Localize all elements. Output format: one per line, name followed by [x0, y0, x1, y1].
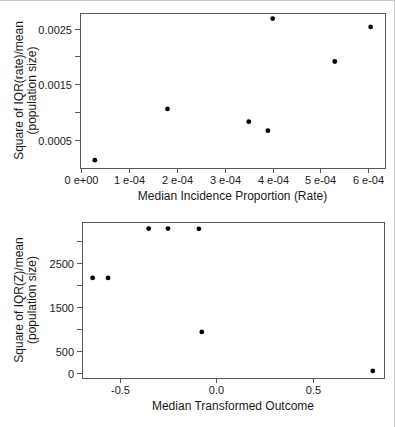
data-point [270, 16, 275, 21]
chart-0: 0 e+001 e-042 e-043 e-044 e-045 e-046 e-… [12, 14, 386, 204]
x-tick-label: 6 e-04 [353, 174, 384, 186]
data-point [332, 59, 337, 64]
y-axis-title-line: (population size) [25, 46, 39, 134]
y-axis-title-line: Square of IQR(Z)/mean [12, 237, 26, 362]
y-tick-label: 0.0015 [38, 79, 72, 91]
data-point [165, 106, 170, 111]
y-tick-label: 0.0005 [38, 135, 72, 147]
x-tick-label: 0.5 [306, 384, 321, 396]
x-tick-label: -0.5 [111, 384, 130, 396]
x-tick-label: 5 e-04 [305, 174, 336, 186]
x-tick-label: 3 e-04 [210, 174, 241, 186]
data-point [92, 158, 97, 163]
plot-box [81, 14, 386, 169]
chart-1: -0.50.00.5050015002500Median Transformed… [12, 223, 385, 414]
data-point [196, 226, 201, 231]
data-point [246, 119, 251, 124]
y-axis-title-line: Square of IQR(rate)/mean [12, 21, 26, 160]
y-tick-label: 0.0025 [38, 24, 72, 36]
scatter-figure: 0 e+001 e-042 e-043 e-044 e-045 e-046 e-… [0, 0, 395, 427]
plots-canvas: 0 e+001 e-042 e-043 e-044 e-045 e-046 e-… [0, 1, 395, 427]
x-tick-label: 4 e-04 [258, 174, 289, 186]
data-point [370, 369, 375, 374]
data-point [166, 226, 171, 231]
y-tick-label: 500 [56, 346, 74, 358]
data-point [90, 276, 95, 281]
x-tick-label: 0.0 [209, 384, 224, 396]
data-point [368, 25, 373, 30]
x-axis-title: Median Transformed Outcome [152, 399, 314, 413]
data-point [146, 226, 151, 231]
y-axis-title-line: (population size) [25, 256, 39, 344]
y-tick-label: 2500 [50, 258, 74, 270]
x-tick-label: 2 e-04 [162, 174, 193, 186]
data-point [199, 330, 204, 335]
x-tick-label: 0 e+00 [65, 174, 99, 186]
y-tick-label: 0 [68, 368, 74, 380]
plot-box [83, 223, 385, 379]
data-point [106, 276, 111, 281]
y-tick-label: 1500 [50, 302, 74, 314]
x-tick-label: 1 e-04 [114, 174, 145, 186]
data-point [265, 128, 270, 133]
x-axis-title: Median Incidence Proportion (Rate) [138, 189, 327, 203]
